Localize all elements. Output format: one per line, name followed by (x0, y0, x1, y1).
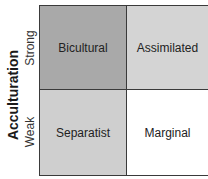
quadrant-grid: Bicultural Assimilated Separatist Margin… (39, 5, 208, 176)
cell-label: Bicultural (58, 41, 107, 55)
cell-separatist: Separatist (40, 90, 127, 175)
cell-bicultural: Bicultural (40, 6, 127, 90)
axis-title-text: Acculturation (5, 50, 21, 140)
row-label-text: Strong (23, 30, 37, 65)
cell-label: Assimilated (137, 41, 198, 55)
row-label-text: Weak (23, 117, 37, 147)
cell-marginal: Marginal (127, 90, 208, 175)
cell-label: Separatist (56, 126, 110, 140)
cell-label: Marginal (144, 126, 190, 140)
y-axis-title: Acculturation (2, 40, 24, 150)
row-label-strong: Strong (22, 6, 38, 90)
cell-assimilated: Assimilated (127, 6, 208, 90)
row-label-weak: Weak (22, 90, 38, 174)
